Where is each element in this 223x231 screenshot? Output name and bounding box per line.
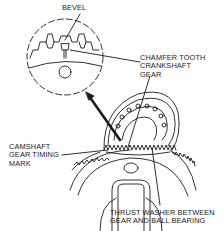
gear-timing-diagram: BEVEL CHAMFER TOOTH CRANKSHAFT GEAR CAMS… xyxy=(0,0,223,231)
bevel-leader xyxy=(65,14,80,40)
thrust-washer-leader xyxy=(152,148,160,205)
diagram-artwork xyxy=(0,0,223,231)
label-chamfer-tooth-crankshaft-gear: CHAMFER TOOTH CRANKSHAFT GEAR xyxy=(140,54,206,79)
timing-mark-leader xyxy=(62,150,108,155)
detail-inset xyxy=(27,19,103,95)
label-camshaft-gear-timing-mark: CAMSHAFT GEAR TIMING MARK xyxy=(9,143,59,168)
chamfer-leader xyxy=(70,50,140,62)
camshaft-gear xyxy=(70,150,196,196)
label-bevel: BEVEL xyxy=(62,4,86,12)
label-thrust-washer: THRUST WASHER BETWEEN GEAR AND BALL BEAR… xyxy=(110,209,215,226)
crankshaft-gear xyxy=(104,92,179,155)
